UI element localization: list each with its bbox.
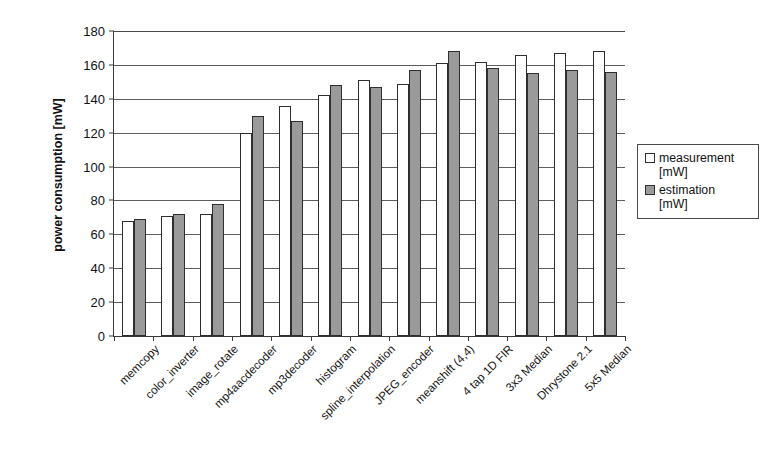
bar-estimation bbox=[330, 85, 342, 336]
bar-measurement bbox=[397, 84, 409, 336]
bar-estimation bbox=[173, 214, 185, 336]
x-tick-mark bbox=[193, 336, 194, 341]
legend-label-estimation: estimation[mW] bbox=[659, 183, 715, 211]
bar-estimation bbox=[605, 72, 617, 336]
power-consumption-bar-chart: power consumption [mW] 02040608010012014… bbox=[0, 0, 776, 470]
legend-label-measurement-text: measurement bbox=[659, 151, 734, 165]
y-tick-label-40: 40 bbox=[91, 261, 105, 276]
x-tick-mark bbox=[271, 336, 272, 341]
bar-group bbox=[114, 31, 153, 336]
y-tick-mark-180 bbox=[109, 31, 114, 32]
bar-measurement bbox=[279, 106, 291, 336]
bar-measurement bbox=[554, 53, 566, 336]
x-tick-mark bbox=[468, 336, 469, 341]
bar-group bbox=[153, 31, 192, 336]
legend-swatch-estimation-icon bbox=[645, 185, 655, 195]
y-tick-mark-160 bbox=[109, 64, 114, 65]
y-tick-label-0: 0 bbox=[98, 329, 105, 344]
bar-estimation bbox=[134, 219, 146, 336]
bar-measurement bbox=[515, 55, 527, 336]
bar-group bbox=[586, 31, 625, 336]
bar-estimation bbox=[291, 121, 303, 336]
y-axis-title: power consumption [mW] bbox=[51, 25, 65, 325]
legend-item-measurement: measurement[mW] bbox=[645, 151, 751, 179]
grid-line-160 bbox=[114, 65, 625, 66]
plot-area: 020406080100120140160180 bbox=[113, 31, 625, 337]
grid-line-180 bbox=[114, 31, 625, 32]
bar-estimation bbox=[566, 70, 578, 336]
y-tick-mark-140 bbox=[109, 98, 114, 99]
bar-group bbox=[350, 31, 389, 336]
y-tick-label-160: 160 bbox=[83, 57, 105, 72]
y-tick-mark-0 bbox=[109, 336, 114, 337]
legend-swatch-measurement-icon bbox=[645, 153, 655, 163]
legend-label-estimation-unit: [mW] bbox=[659, 197, 715, 211]
bar-estimation bbox=[487, 68, 499, 336]
x-axis-labels: memcopycolor_inverterimage_rotatemp4aacd… bbox=[113, 342, 625, 468]
bar-group bbox=[507, 31, 546, 336]
bar-estimation bbox=[448, 51, 460, 336]
y-tick-mark-100 bbox=[109, 166, 114, 167]
bar-measurement bbox=[161, 216, 173, 336]
x-tick-mark bbox=[586, 336, 587, 341]
y-tick-label-100: 100 bbox=[83, 159, 105, 174]
bar-measurement bbox=[593, 51, 605, 336]
x-tick-mark bbox=[311, 336, 312, 341]
y-tick-label-60: 60 bbox=[91, 227, 105, 242]
x-tick-mark bbox=[507, 336, 508, 341]
bar-estimation bbox=[409, 70, 421, 336]
bar-group bbox=[232, 31, 271, 336]
bar-estimation bbox=[370, 87, 382, 336]
y-tick-mark-40 bbox=[109, 268, 114, 269]
legend-label-measurement: measurement[mW] bbox=[659, 151, 734, 179]
bar-group bbox=[389, 31, 428, 336]
bar-measurement bbox=[358, 80, 370, 336]
x-tick-mark bbox=[153, 336, 154, 341]
y-tick-label-140: 140 bbox=[83, 91, 105, 106]
x-tick-mark bbox=[350, 336, 351, 341]
bar-group bbox=[193, 31, 232, 336]
x-tick-mark bbox=[546, 336, 547, 341]
y-tick-label-80: 80 bbox=[91, 193, 105, 208]
bar-measurement bbox=[475, 62, 487, 337]
bar-group bbox=[311, 31, 350, 336]
bar-measurement bbox=[200, 214, 212, 336]
legend: measurement[mW] estimation[mW] bbox=[637, 144, 759, 219]
bar-estimation bbox=[252, 116, 264, 336]
y-tick-mark-120 bbox=[109, 132, 114, 133]
x-tick-mark bbox=[232, 336, 233, 341]
y-tick-label-20: 20 bbox=[91, 295, 105, 310]
y-tick-mark-80 bbox=[109, 200, 114, 201]
x-tick-mark bbox=[389, 336, 390, 341]
bar-measurement bbox=[318, 95, 330, 336]
bar-estimation bbox=[527, 73, 539, 336]
legend-item-estimation: estimation[mW] bbox=[645, 183, 751, 211]
bar-group bbox=[546, 31, 585, 336]
bar-group bbox=[468, 31, 507, 336]
x-tick-mark bbox=[429, 336, 430, 341]
x-tick-mark bbox=[114, 336, 115, 341]
bar-measurement bbox=[240, 133, 252, 336]
bar-group bbox=[429, 31, 468, 336]
x-tick-mark-end bbox=[625, 336, 626, 341]
bars-layer bbox=[114, 31, 625, 336]
legend-label-measurement-unit: [mW] bbox=[659, 165, 734, 179]
y-tick-label-180: 180 bbox=[83, 24, 105, 39]
bar-group bbox=[271, 31, 310, 336]
bar-estimation bbox=[212, 204, 224, 336]
legend-label-estimation-text: estimation bbox=[659, 183, 715, 197]
y-tick-mark-20 bbox=[109, 302, 114, 303]
y-tick-label-120: 120 bbox=[83, 125, 105, 140]
bar-measurement bbox=[436, 63, 448, 336]
bar-measurement bbox=[122, 221, 134, 336]
y-tick-mark-60 bbox=[109, 234, 114, 235]
